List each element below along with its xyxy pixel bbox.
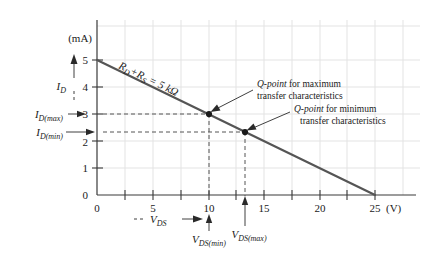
x-tick-label-25: 25	[370, 202, 382, 214]
y-tick-label-5: 5	[83, 54, 89, 66]
y-tick-label-0: 0	[83, 189, 89, 201]
qmin-annotation-line1: Q-point for minimum	[294, 104, 377, 114]
y-tick-label-1: 1	[83, 162, 89, 174]
load-line-figure: 5 4 3 2 1 0 (mA) 0 5 10 15 20 25 (V) ID …	[0, 0, 428, 258]
chart-svg: 5 4 3 2 1 0 (mA) 0 5 10 15 20 25 (V) ID …	[0, 0, 428, 258]
qmin-annotation-line2: transfer characteristics	[300, 116, 386, 126]
x-tick-label-0: 0	[94, 202, 100, 214]
x-tick-label-15: 15	[259, 202, 271, 214]
chart-background	[0, 0, 428, 258]
q-point-min-marker	[242, 129, 248, 135]
x-tick-label-20: 20	[315, 202, 327, 214]
y-axis-unit-label: (mA)	[68, 32, 92, 45]
qmax-annotation-line1: Q-point for maximum	[257, 79, 342, 89]
y-tick-label-2: 2	[83, 136, 89, 148]
qmax-annotation-line2: transfer characteristics	[257, 91, 343, 101]
x-tick-label-10: 10	[204, 202, 216, 214]
y-tick-label-4: 4	[83, 81, 89, 93]
x-axis-unit-label: (V)	[386, 202, 402, 215]
